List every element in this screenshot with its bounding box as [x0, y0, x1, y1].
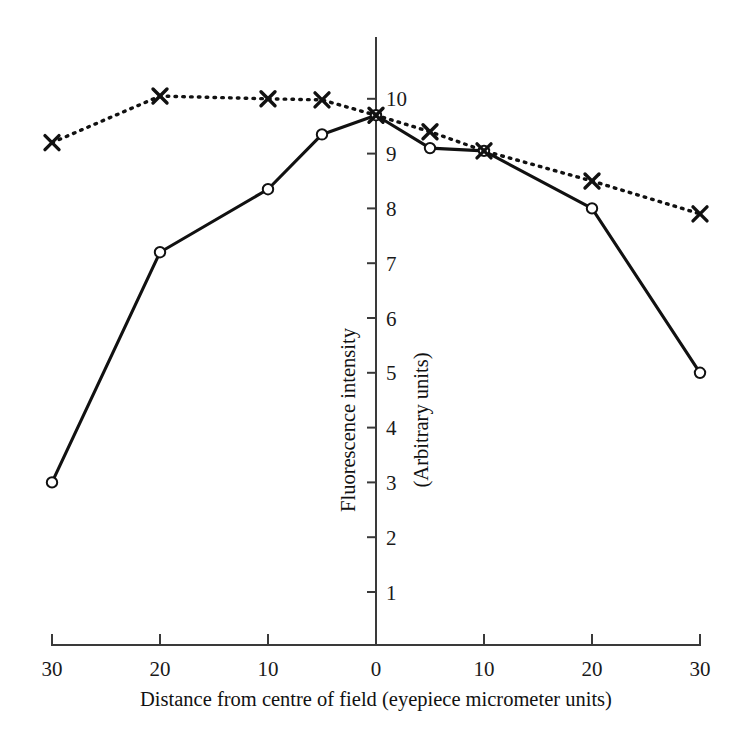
data-point-circle — [47, 477, 57, 487]
y-tick-label: 4 — [386, 416, 397, 440]
x-tick-label: 20 — [582, 657, 603, 681]
data-point-circle — [425, 143, 435, 153]
y-axis-title: Fluorescence intensity — [337, 327, 360, 512]
chart-plot-area: 123456789103020100102030 Distance from c… — [0, 0, 749, 751]
data-point-cross — [45, 136, 59, 150]
chart-figure: 123456789103020100102030 Distance from c… — [0, 0, 749, 751]
x-tick-label: 20 — [150, 657, 171, 681]
x-tick-label: 0 — [371, 657, 382, 681]
y-tick-label: 10 — [386, 87, 407, 111]
axes-group — [52, 38, 700, 645]
data-point-circle — [263, 184, 273, 194]
y-tick-label: 8 — [386, 197, 397, 221]
data-point-circle — [587, 203, 597, 213]
y-tick-label: 3 — [386, 471, 397, 495]
y-tick-label: 6 — [386, 307, 397, 331]
data-point-circle — [695, 368, 705, 378]
data-point-cross — [585, 174, 599, 188]
y-tick-label: 2 — [386, 526, 397, 550]
y-tick-label: 5 — [386, 361, 397, 385]
y-tick-label: 1 — [386, 581, 397, 605]
x-axis-title: Distance from centre of field (eyepiece … — [140, 688, 612, 711]
data-point-cross — [153, 89, 167, 103]
y-tick-label: 9 — [386, 142, 397, 166]
x-tick-label: 10 — [258, 657, 279, 681]
y-axis-secondary-title: (Arbitrary units) — [410, 353, 433, 488]
y-tick-label: 7 — [386, 252, 397, 276]
data-point-circle — [317, 129, 327, 139]
data-point-circle — [155, 247, 165, 257]
x-tick-label: 30 — [690, 657, 711, 681]
x-tick-label: 30 — [42, 657, 63, 681]
x-tick-label: 10 — [474, 657, 495, 681]
data-point-cross — [423, 125, 437, 139]
